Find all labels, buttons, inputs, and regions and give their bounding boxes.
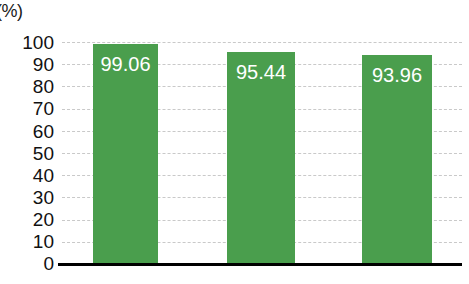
bar: 99.06 [93,44,158,264]
y-axis-tick: 90 [33,55,54,74]
gridline [62,42,462,43]
bar: 93.96 [362,55,432,264]
y-axis-tick: 20 [33,210,54,229]
y-axis-tick: 0 [43,254,54,273]
x-axis-line [58,263,462,266]
y-axis-tick: 70 [33,99,54,118]
bar-chart: (%) 100 90 80 70 60 50 40 30 20 10 0 99.… [0,0,469,284]
bar: 95.44 [227,52,295,264]
y-axis-tick: 80 [33,77,54,96]
y-axis-tick: 50 [33,144,54,163]
bar-value-label: 99.06 [93,53,158,75]
y-axis-tick: 30 [33,188,54,207]
y-axis-tick: 10 [33,232,54,251]
y-axis-tick-labels: 100 90 80 70 60 50 40 30 20 10 0 [0,0,56,284]
bar-value-label: 93.96 [362,64,432,86]
plot-area: 99.06 95.44 93.96 [62,42,462,264]
bar-value-label: 95.44 [227,61,295,83]
y-axis-tick: 40 [33,166,54,185]
y-axis-tick: 60 [33,122,54,141]
y-axis-tick: 100 [22,33,54,52]
